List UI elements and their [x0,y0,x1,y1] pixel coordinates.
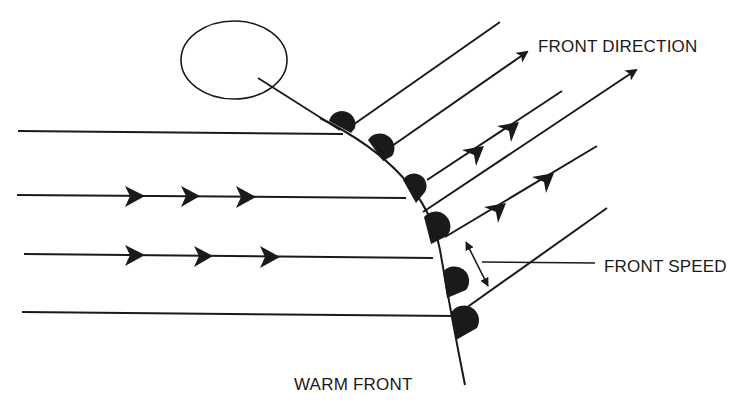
diagram-graphics [0,0,756,409]
warm-front-symbol-icon [424,212,450,244]
flow-arrow-icon [462,146,484,166]
warm-front-line [320,118,465,385]
front-symbols [329,111,479,340]
warm-front-symbol-icon [368,134,394,161]
label-circle [181,21,340,130]
flow-arrow-icon [484,203,506,223]
warm-front-label: WARM FRONT [294,375,412,395]
front-speed-indicator [466,242,595,286]
front-direction-label: FRONT DIRECTION [538,37,697,57]
horizontal-streamlines [17,131,456,316]
front-speed-label: FRONT SPEED [604,257,727,277]
warm-front-symbol-icon [443,266,469,298]
warm-front-symbol-icon [451,306,479,340]
warm-front-symbol-icon [403,173,427,203]
diagonal-arrowheads [462,122,554,223]
warm-front-diagram: FRONT DIRECTION FRONT SPEED WARM FRONT [0,0,756,409]
